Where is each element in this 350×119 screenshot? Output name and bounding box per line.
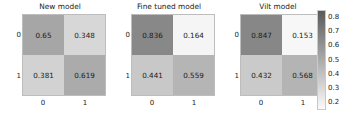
cell-value: 0.381 [33,71,54,80]
heatmap-cell: 0.441 [132,55,173,95]
y-tick-label: 0 [123,31,130,39]
cell-value: 0.432 [251,71,272,80]
cell-value: 0.153 [292,31,313,40]
colorbar-tick-label: 0.7 [328,28,339,35]
colorbar-tick-label: 0.4 [328,71,339,78]
heatmap-grid: 0.65 0.348 0.381 0.619 [22,14,106,96]
heatmap-cell: 0.65 [23,15,64,55]
x-tick-label: 0 [240,99,282,107]
heatmap-cell: 0.619 [64,55,105,95]
heatmap-grid: 0.836 0.164 0.441 0.559 [131,14,215,96]
y-tick-label: 1 [14,72,21,80]
colorbar-tick-label: 0.2 [328,99,339,106]
x-tick-label: 1 [173,99,215,107]
cell-value: 0.847 [251,31,272,40]
heatmap-grid: 0.847 0.153 0.432 0.568 [240,14,324,96]
heatmap-cell: 0.164 [173,15,214,55]
colorbar-tick-label: 0.5 [328,57,339,64]
heatmap-cell: 0.348 [64,15,105,55]
colorbar-gradient [317,10,326,110]
cell-value: 0.568 [292,71,313,80]
panel-title: New model [14,2,106,11]
colorbar-tick-label: 0.6 [328,42,339,49]
heatmap-panel-2: Fine tuned model 0 1 0.836 0.164 0.441 0… [123,0,215,119]
y-tick-label: 0 [232,31,239,39]
colorbar-tick-label: 0.8 [328,14,339,21]
cell-value: 0.836 [142,31,163,40]
heatmap-cell: 0.559 [173,55,214,95]
heatmap-cell: 0.847 [241,15,282,55]
cell-value: 0.619 [74,71,95,80]
confusion-matrix-figure: New model 0 1 0.65 0.348 0.381 0.619 0 1… [0,0,350,119]
panel-title: Vilt model [232,2,324,11]
heatmap-panel-3: Vilt model 0 1 0.847 0.153 0.432 0.568 0… [232,0,324,119]
heatmap-panel-1: New model 0 1 0.65 0.348 0.381 0.619 0 1 [14,0,106,119]
x-tick-label: 0 [22,99,64,107]
cell-value: 0.441 [142,71,163,80]
colorbar-tick-label: 0.3 [328,85,339,92]
y-tick-label: 0 [14,31,21,39]
y-tick-label: 1 [232,72,239,80]
heatmap-cell: 0.836 [132,15,173,55]
cell-value: 0.348 [74,31,95,40]
x-tick-label: 0 [131,99,173,107]
colorbar: 0.80.70.60.50.40.30.2 [317,10,347,110]
x-tick-label: 1 [64,99,106,107]
panel-title: Fine tuned model [123,2,215,11]
heatmap-cell: 0.432 [241,55,282,95]
cell-value: 0.65 [35,31,51,40]
heatmap-cell: 0.381 [23,55,64,95]
cell-value: 0.164 [183,31,204,40]
cell-value: 0.559 [183,71,204,80]
y-tick-label: 1 [123,72,130,80]
